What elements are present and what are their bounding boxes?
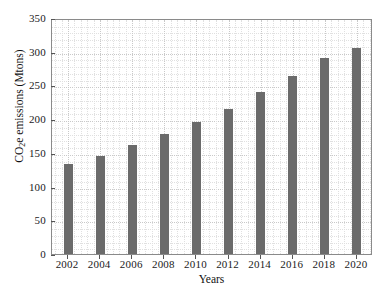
y-tick-mark — [51, 221, 55, 222]
bar-2010 — [192, 122, 201, 254]
x-tick-mark — [99, 255, 100, 259]
x-tick-mark — [195, 255, 196, 259]
y-tick-mark — [51, 188, 55, 189]
y-tick-mark — [51, 86, 55, 87]
x-tick-mark — [324, 255, 325, 259]
y-tick-mark — [51, 154, 55, 155]
x-tick-label-2020: 2020 — [334, 258, 378, 270]
plot-area — [51, 19, 372, 255]
x-tick-mark — [356, 255, 357, 259]
x-tick-mark — [260, 255, 261, 259]
y-axis-label: CO2e emissions (Mtons) — [13, 8, 27, 204]
x-tick-mark — [67, 255, 68, 259]
y-tick-mark — [51, 53, 55, 54]
y-axis-label-subscript: 2 — [18, 143, 27, 147]
bar-chart-figure: 050100150200250300350 CO2e emissions (Mt… — [0, 0, 392, 296]
y-tick-label: 0 — [0, 249, 46, 260]
x-tick-mark — [292, 255, 293, 259]
bar-2008 — [160, 134, 169, 254]
bar-2004 — [96, 156, 105, 254]
y-tick-label: 50 — [0, 215, 46, 226]
x-axis-label: Years — [51, 273, 372, 286]
y-tick-mark — [51, 19, 55, 20]
bar-2006 — [128, 145, 137, 254]
bar-2018 — [320, 58, 329, 254]
y-tick-mark — [51, 255, 55, 256]
x-tick-mark — [163, 255, 164, 259]
bar-2002 — [64, 164, 73, 254]
bar-2020 — [352, 48, 361, 254]
bar-2014 — [256, 92, 265, 254]
bar-2012 — [224, 109, 233, 254]
bar-2016 — [288, 76, 297, 254]
x-tick-mark — [131, 255, 132, 259]
y-tick-mark — [51, 120, 55, 121]
x-tick-mark — [228, 255, 229, 259]
bar-series — [52, 20, 371, 254]
